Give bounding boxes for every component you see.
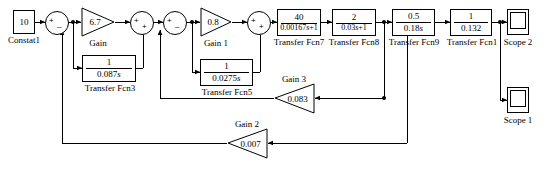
gain-block[interactable]: 6.7 [81,7,115,37]
sum1-plus-sign: + [49,17,54,25]
constant-block[interactable]: 10 [13,10,35,34]
transfer-fcn7-den-coeff: 0.00167 [280,23,306,32]
constant-label: Constat1 [0,36,51,45]
transfer-fcn9-numerator: 0.5 [395,12,432,21]
transfer-fcn5-label: Transfer Fcn5 [187,88,267,97]
transfer-fcn9-den-coeff: 0.18 [404,23,420,33]
gain-label: Gain [74,39,122,48]
sum-block-3[interactable]: + – [163,11,187,35]
transfer-fcn5-den-var: s [237,73,241,83]
sum4-second-sign: + [259,23,264,31]
transfer-fcn1-numerator: 1 [453,12,489,21]
scope2-label: Scope 2 [492,38,544,47]
transfer-fcn9-block[interactable]: 0.5 0.18s [392,9,435,36]
scope1-screen [510,90,526,107]
transfer-fcn5-block[interactable]: 1 0.0275s [200,59,253,86]
sum1-minus-sign: – [57,23,61,31]
scope1-label: Scope 1 [492,116,544,125]
transfer-fcn3-den-var: s [117,69,121,79]
transfer-fcn9-den-var: s [420,23,424,33]
transfer-fcn3-label: Transfer Fcn3 [70,84,150,93]
transfer-fcn7-numerator: 40 [280,13,318,22]
scope2-block[interactable] [507,9,529,35]
transfer-fcn1-den-coeff: 0.132 [461,23,481,33]
constant-value: 10 [20,18,29,27]
transfer-fcn3-block[interactable]: 1 0.087s [82,55,136,82]
transfer-fcn5-denominator: 0.0275s [203,74,250,83]
gain2-block[interactable]: 0.007 [227,128,268,159]
scope2-screen [510,12,526,29]
gain3-block[interactable]: 0.083 [274,83,315,114]
transfer-fcn5-numerator: 1 [203,62,250,71]
transfer-fcn5-den-coeff: 0.0275 [212,73,237,83]
block-diagram-canvas: 10 Constat1 + – 6.7 Gain + + 1 0.087s Tr… [0,0,550,169]
scope1-block[interactable] [507,87,529,113]
transfer-fcn1-block[interactable]: 1 0.132 [450,9,492,36]
transfer-fcn8-den-coeff: 0.03 [341,23,355,32]
transfer-fcn3-den-coeff: 0.087 [97,69,117,79]
gain1-label: Gain 1 [191,39,241,48]
sum3-plus-sign: + [167,17,172,25]
transfer-fcn8-numerator: 2 [335,13,373,22]
sum3-minus-sign: – [175,23,179,31]
transfer-fcn7-denominator: 0.00167s+1 [280,24,318,32]
transfer-fcn8-denominator: 0.03s+1 [335,24,373,32]
sum2-plus-sign: + [134,17,139,25]
sum2-second-sign: + [142,23,147,31]
transfer-fcn3-denominator: 0.087s [85,70,133,79]
transfer-fcn7-den-tail: +1 [309,23,318,32]
sum4-plus-sign: + [251,17,256,25]
sum-block-4[interactable]: + + [247,11,271,35]
transfer-fcn1-denominator: 0.132 [453,24,489,33]
transfer-fcn8-den-tail: +1 [358,23,367,32]
transfer-fcn3-numerator: 1 [85,58,133,67]
gain1-block[interactable]: 0.8 [200,7,232,37]
transfer-fcn9-denominator: 0.18s [395,24,432,33]
transfer-fcn8-block[interactable]: 2 0.03s+1 [332,9,376,36]
sum-block-2[interactable]: + + [130,11,154,35]
sum-block-1[interactable]: + – [45,11,69,35]
transfer-fcn7-block[interactable]: 40 0.00167s+1 [277,9,321,36]
